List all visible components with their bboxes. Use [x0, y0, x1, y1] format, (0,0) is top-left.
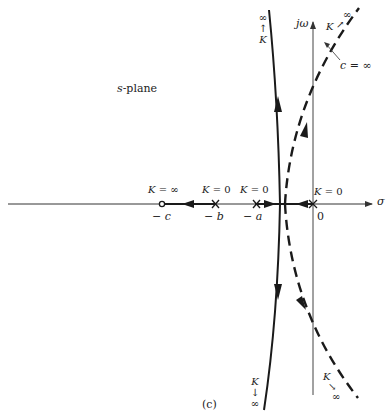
figure-caption: (c) — [202, 399, 217, 410]
locus-branch-solid-lower — [264, 204, 280, 410]
asymptote-label-dashed-top: ∞ ↗ K — [326, 10, 351, 32]
arrow-toward-c — [182, 200, 194, 208]
s-plane-label: s-plane — [117, 83, 157, 94]
position-label-b: − b — [204, 211, 224, 222]
gain-label-c: K = ∞ — [148, 185, 179, 195]
arrow-from-0-left — [296, 200, 308, 208]
asymptote-label-solid-top: ∞ ↑ K — [257, 12, 269, 45]
root-locus-plot — [0, 0, 391, 419]
asymptote-label-dashed-bottom: K ↘ ∞ — [323, 372, 340, 402]
arrow-up-dashed — [300, 122, 308, 138]
gain-label-b: K = 0 — [202, 185, 231, 195]
position-label-c: − c — [152, 211, 171, 222]
imag-axis-label: jω — [296, 18, 308, 29]
zero-marker-c — [159, 201, 164, 206]
position-label-origin: 0 — [317, 211, 324, 222]
position-label-a: − a — [243, 211, 262, 222]
real-axis-label: σ — [377, 196, 385, 207]
root-locus-figure: s-plane jω σ K = ∞ K = 0 K = 0 K = 0 − c… — [0, 0, 391, 419]
locus-branch-dashed-lower — [285, 204, 358, 398]
gain-label-origin: K = 0 — [314, 187, 343, 197]
gain-label-a: K = 0 — [240, 185, 269, 195]
locus-branch-dashed-upper — [285, 8, 359, 204]
annotation-c-infinity: c = ∞ — [340, 60, 372, 71]
asymptote-label-solid-bottom: K ↓ ∞ — [249, 376, 261, 409]
arrow-from-a-right — [264, 200, 276, 208]
